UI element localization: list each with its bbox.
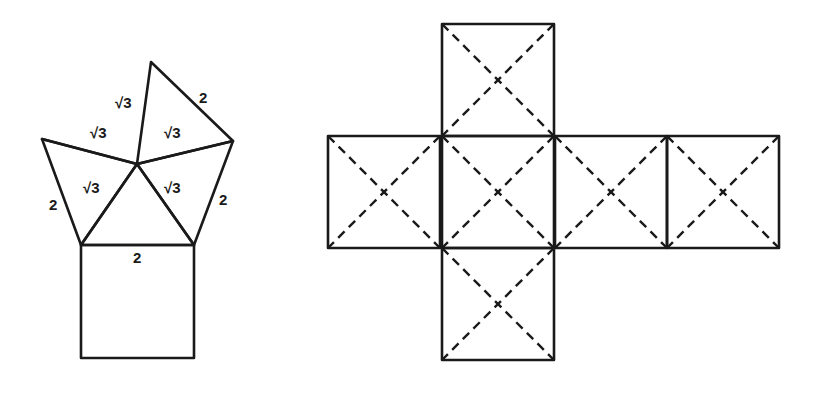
net-face-bottom [442,248,554,360]
diagram-canvas: √32√3√3√3√3222 [0,0,815,414]
edge-length-label: √3 [164,179,181,196]
edge-length-label: 2 [133,249,141,266]
net-face-far-right [667,136,779,248]
triangle-bottom [81,164,194,245]
net-face-center [442,136,554,248]
cube-net-figure [328,24,779,360]
net-face-right [555,136,667,248]
net-face-left [328,136,440,248]
edge-length-label: √3 [115,94,132,111]
edge-length-label: √3 [83,179,100,196]
edge-length-label: √3 [90,124,107,141]
edge-length-label: √3 [164,124,181,141]
edge-length-label: 2 [199,89,207,106]
square-with-triangles-figure: √32√3√3√3√3222 [42,62,233,358]
edge-length-label: 2 [219,191,227,208]
edge-left-apex [42,139,137,164]
net-face-top [442,24,554,136]
edge-length-label: 2 [49,196,57,213]
triangle-top [137,62,233,164]
